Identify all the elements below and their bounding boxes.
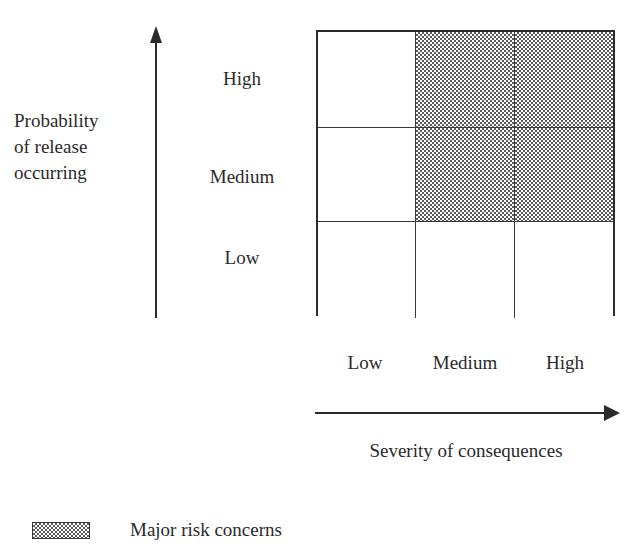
y-axis-line bbox=[155, 40, 157, 318]
y-axis-title-line-2: of release bbox=[14, 134, 144, 160]
matrix-cell-high-high[interactable] bbox=[515, 32, 613, 128]
legend: Major risk concerns bbox=[32, 519, 282, 541]
matrix-cell-high-medium[interactable] bbox=[416, 32, 514, 128]
y-axis-title: Probability of release occurring bbox=[14, 108, 144, 186]
matrix-cell-low-medium[interactable] bbox=[416, 222, 514, 318]
y-tick-label-high: High bbox=[172, 68, 312, 90]
y-tick-label-low: Low bbox=[172, 247, 312, 269]
arrow-right-icon bbox=[604, 405, 620, 421]
matrix-cell-low-low[interactable] bbox=[318, 222, 416, 318]
legend-swatch-major-risk bbox=[32, 522, 90, 539]
matrix-cell-medium-medium[interactable] bbox=[416, 128, 514, 222]
y-axis-arrow bbox=[150, 26, 162, 318]
y-tick-label-medium: Medium bbox=[172, 166, 312, 188]
y-axis-title-line-3: occurring bbox=[14, 160, 144, 186]
matrix-cell-medium-high[interactable] bbox=[515, 128, 613, 222]
legend-label-major-risk: Major risk concerns bbox=[130, 519, 282, 541]
matrix-cell-low-high[interactable] bbox=[515, 222, 613, 318]
risk-matrix-grid bbox=[316, 30, 615, 316]
x-axis-arrow bbox=[315, 405, 620, 421]
x-axis-line bbox=[315, 412, 606, 414]
y-axis-title-line-1: Probability bbox=[14, 108, 144, 134]
x-tick-label-high: High bbox=[505, 352, 625, 374]
x-axis-title: Severity of consequences bbox=[316, 440, 616, 462]
matrix-cell-medium-low[interactable] bbox=[318, 128, 416, 222]
matrix-cell-high-low[interactable] bbox=[318, 32, 416, 128]
